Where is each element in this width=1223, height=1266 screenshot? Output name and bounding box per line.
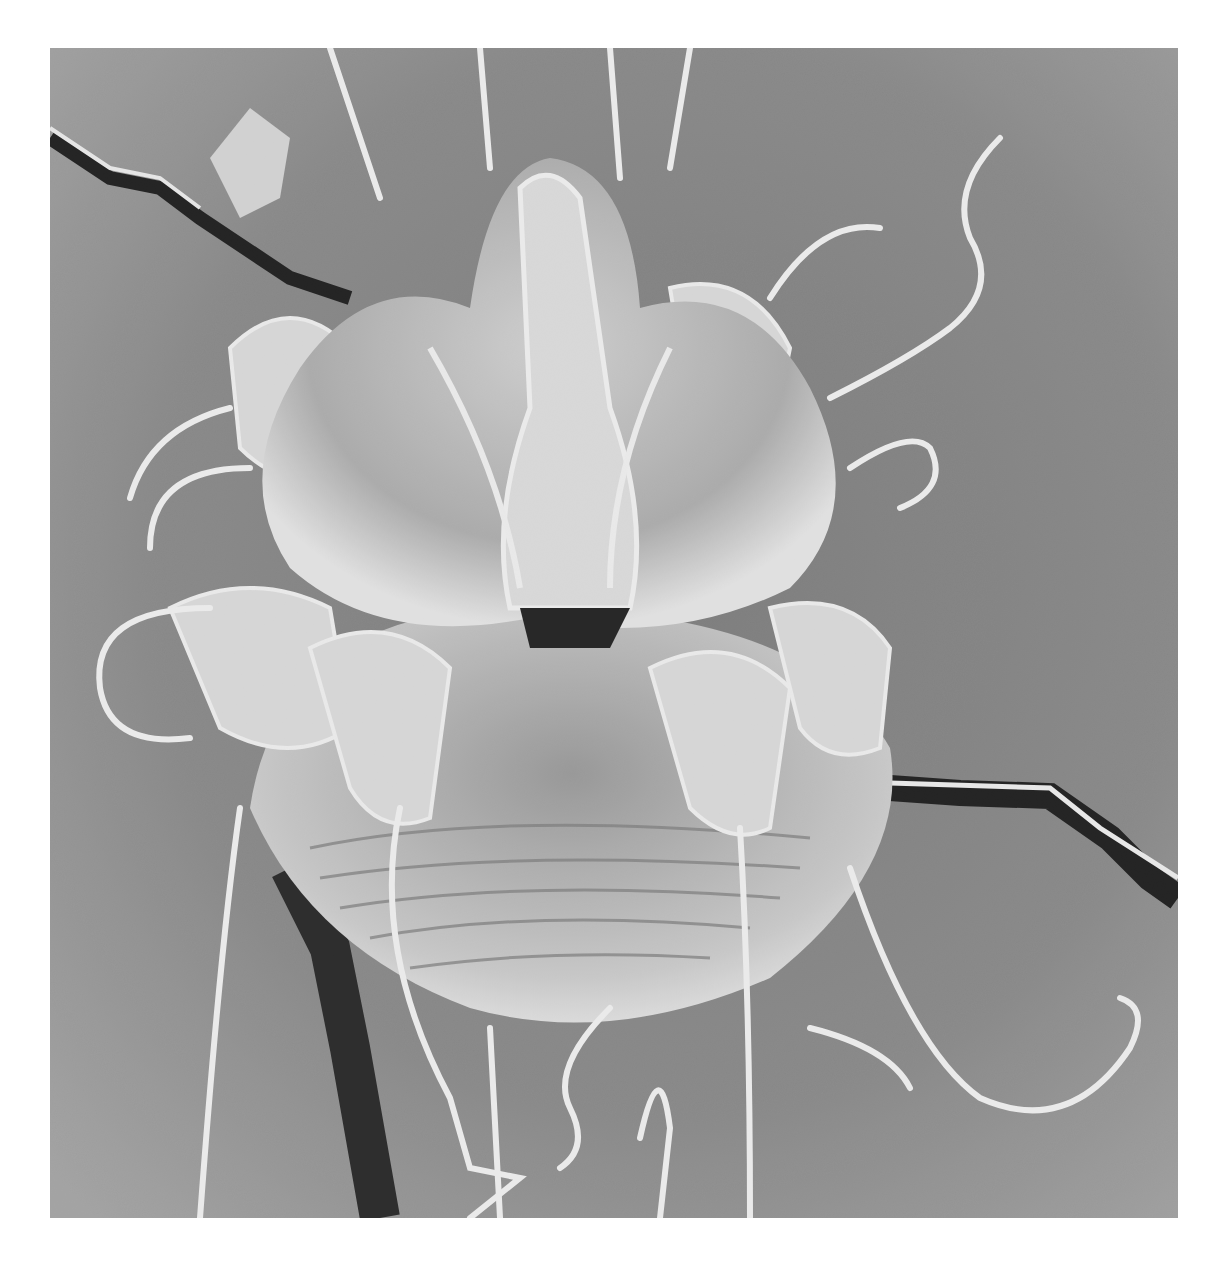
mite-illustration [50,48,1178,1218]
sem-micrograph-mite [50,48,1178,1218]
